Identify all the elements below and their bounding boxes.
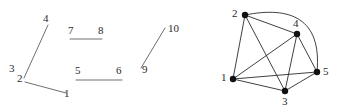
left-node-label-10: 10: [168, 23, 179, 34]
right-edge-1-3: [233, 79, 285, 91]
right-edge-2-3: [245, 15, 285, 91]
graph-edges-layer: [0, 0, 341, 112]
left-node-label-6: 6: [116, 65, 122, 76]
right-node-dot-2: [242, 12, 248, 18]
right-node-label-4: 4: [293, 18, 299, 29]
right-node-dot-3: [282, 88, 288, 94]
left-node-label-7: 7: [68, 25, 74, 36]
left-node-label-2: 2: [17, 73, 23, 84]
right-edge-1-4: [233, 34, 297, 79]
right-node-dot-1: [230, 76, 236, 82]
left-edge-2-4: [24, 25, 48, 78]
right-edge-2-4: [245, 15, 297, 34]
left-edge-2-1: [25, 82, 66, 93]
left-node-label-4: 4: [43, 13, 49, 24]
right-node-label-2: 2: [232, 8, 238, 19]
left-node-label-3: 3: [9, 63, 15, 74]
right-edge-4-3: [285, 34, 297, 91]
right-edge-2-1: [233, 15, 245, 79]
right-graph-edges: [233, 12, 318, 91]
left-node-label-8: 8: [98, 25, 104, 36]
right-node-dot-4: [294, 31, 300, 37]
left-node-label-1: 1: [64, 88, 70, 99]
right-node-label-5: 5: [323, 66, 329, 77]
left-node-label-9: 9: [142, 64, 148, 75]
left-graph-edges: [24, 25, 165, 93]
left-edge-9-10: [141, 28, 165, 68]
right-node-label-1: 1: [221, 72, 227, 83]
right-edge-1-5: [233, 72, 317, 79]
right-edge-3-5: [285, 72, 317, 91]
right-node-dot-5: [314, 69, 320, 75]
right-node-label-3: 3: [282, 96, 288, 107]
left-node-label-5: 5: [75, 65, 81, 76]
graph-figure: 4 3 2 1 7 8 5 6 9 10 2 4 1 5 3: [0, 0, 341, 112]
